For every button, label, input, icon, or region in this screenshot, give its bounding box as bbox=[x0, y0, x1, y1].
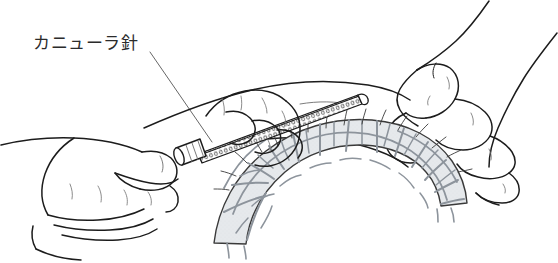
figure-root: カニューラ針 bbox=[0, 0, 558, 263]
cannula-label: カニューラ針 bbox=[33, 33, 138, 53]
cannula-needle-illustration: カニューラ針 bbox=[0, 0, 558, 263]
